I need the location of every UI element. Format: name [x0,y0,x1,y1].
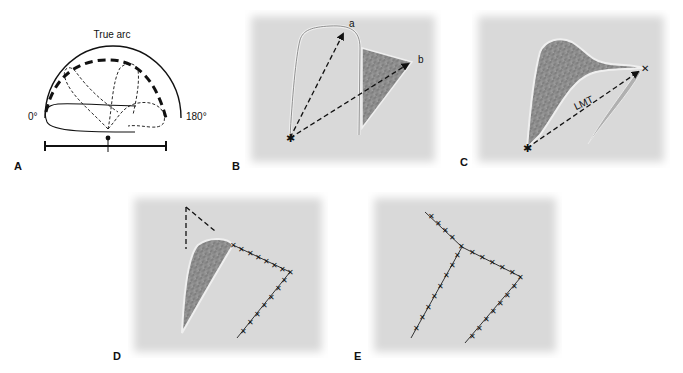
svg-text:✕: ✕ [240,327,247,336]
svg-text:✕: ✕ [247,318,254,327]
svg-text:✕: ✕ [489,258,496,267]
true-arc-label: True arc [94,29,131,40]
panel-a-diagram: True arc 0° 180° [28,29,207,152]
panel-b-diagram: ✱ a b [286,18,425,144]
svg-text:✕: ✕ [435,219,442,228]
svg-text:✕: ✕ [442,226,449,235]
svg-text:✕: ✕ [281,276,288,285]
svg-text:✕: ✕ [419,313,426,322]
suture-line-e [411,212,521,343]
svg-text:✕: ✕ [517,273,524,282]
svg-text:✕: ✕ [413,324,420,333]
svg-text:✕: ✕ [275,284,282,293]
svg-text:✕: ✕ [443,271,450,280]
true-arc [45,46,181,118]
svg-text:✕: ✕ [287,268,294,277]
svg-text:✕: ✕ [425,303,432,312]
svg-text:✕: ✕ [483,315,490,324]
flap-outline [290,26,360,138]
panel-label-a: A [14,160,22,172]
svg-text:✕: ✕ [263,257,270,266]
panel-label-c: C [460,156,468,168]
svg-text:✕: ✕ [449,233,456,242]
sutures-e: ✕✕✕ ✕✕ ✕✕✕ ✕✕✕ ✕✕✕ ✕✕✕ ✕✕ ✕✕✕ ✕✕✕ ✕ [413,212,524,341]
svg-text:✕: ✕ [279,265,286,274]
panel-label-e: E [354,350,361,362]
flap-position-135 [108,102,164,129]
svg-text:✕: ✕ [255,253,262,262]
flap-position-45 [64,68,118,129]
pivot-star-c: ✱ [523,142,532,154]
panel-label-b: B [232,160,240,172]
flap-sliver [588,70,641,144]
svg-text:✕: ✕ [504,291,511,300]
svg-text:✕: ✕ [230,241,237,250]
svg-text:✕: ✕ [476,324,483,333]
svg-text:✕: ✕ [479,253,486,262]
svg-text:✕: ✕ [509,268,516,277]
dog-ear-line-diagonal [186,207,215,231]
suture-tip-c: ✕ [641,63,649,74]
svg-text:✕: ✕ [437,282,444,291]
triangle-defect [362,48,412,128]
panel-label-d: D [113,350,121,362]
svg-text:✕: ✕ [497,299,504,308]
figure-canvas: True arc 0° 180° ✱ a b ✱ ✕ LMT [0,0,683,373]
svg-text:✕: ✕ [428,212,435,221]
svg-text:✕: ✕ [499,263,506,272]
flap-position-0 [45,104,136,132]
svg-text:✕: ✕ [431,292,438,301]
svg-text:✕: ✕ [511,282,518,291]
svg-text:✕: ✕ [458,242,465,251]
flap-d [182,239,233,333]
sutures-d: ✕✕✕ ✕✕✕ ✕✕ ✕✕✕ ✕✕✕ ✕ [230,241,294,336]
svg-text:✕: ✕ [469,248,476,257]
svg-text:✕: ✕ [238,245,245,254]
svg-text:✕: ✕ [247,249,254,258]
svg-text:✕: ✕ [268,293,275,302]
svg-text:✕: ✕ [454,251,461,260]
panel-c-diagram: ✱ ✕ LMT [523,39,650,154]
svg-text:✕: ✕ [449,261,456,270]
panel-d-diagram: ✕✕✕ ✕✕✕ ✕✕ ✕✕✕ ✕✕✕ ✕ [182,207,294,338]
panel-e-diagram: ✕✕✕ ✕✕ ✕✕✕ ✕✕✕ ✕✕✕ ✕✕✕ ✕✕ ✕✕✕ ✕✕✕ ✕ [411,212,524,343]
label-b: b [418,54,424,65]
label-a: a [349,18,355,29]
svg-text:✕: ✕ [490,307,497,316]
svg-text:✕: ✕ [271,261,278,270]
svg-text:✕: ✕ [254,310,261,319]
pivot-star-b: ✱ [286,132,295,144]
angle-0-label: 0° [28,111,38,122]
svg-text:✕: ✕ [261,301,268,310]
flap-position-90 [108,64,138,129]
svg-text:✕: ✕ [469,332,476,341]
angle-180-label: 180° [186,111,207,122]
